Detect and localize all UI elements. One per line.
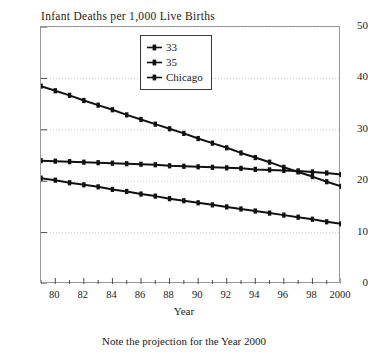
- line-dot-marker: [146, 57, 163, 68]
- figure-root: · · · · · · Infant Deaths per 1,000 Live…: [0, 0, 368, 357]
- line-dot-marker: [146, 72, 163, 83]
- chart-title: Infant Deaths per 1,000 Live Births: [41, 10, 215, 22]
- top-cropped-text: · · · · · ·: [0, 0, 368, 10]
- series-Chicago: [41, 176, 341, 227]
- y-tick-label: 10: [338, 226, 368, 237]
- line-dot-marker: [146, 42, 163, 53]
- series-33: [41, 84, 341, 189]
- y-tick-label: 50: [338, 20, 368, 31]
- y-tick-label: 20: [338, 174, 368, 185]
- series-35: [41, 158, 341, 177]
- x-tick-label: 2000: [320, 289, 360, 300]
- legend-item: Chicago: [146, 70, 203, 85]
- chart-legend: 3335Chicago: [140, 35, 212, 90]
- figure-caption: Note the projection for the Year 2000: [0, 335, 368, 347]
- legend-item: 35: [146, 55, 203, 70]
- x-axis-ticks: [41, 278, 341, 284]
- legend-label: 35: [166, 57, 177, 68]
- data-series-layer: [41, 84, 341, 227]
- x-axis-title: Year: [0, 305, 368, 317]
- y-tick-label: 0: [338, 277, 368, 288]
- y-tick-label: 40: [338, 71, 368, 82]
- legend-label: 33: [166, 42, 177, 53]
- legend-label: Chicago: [166, 72, 203, 83]
- y-tick-label: 30: [338, 123, 368, 134]
- y-axis-ticks: [41, 27, 47, 284]
- legend-item: 33: [146, 40, 203, 55]
